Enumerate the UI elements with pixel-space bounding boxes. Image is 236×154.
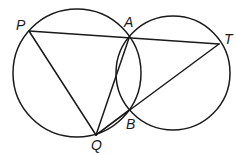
geometry-diagram: PATBQ	[0, 0, 236, 154]
right-circle	[116, 16, 230, 130]
point-label-t: T	[224, 31, 234, 47]
point-label-a: A	[123, 14, 133, 30]
segment-QA	[96, 38, 129, 135]
point-label-b: B	[126, 116, 135, 132]
segment-PQ	[29, 31, 96, 135]
left-circle	[13, 9, 141, 137]
segment-QT	[96, 44, 219, 135]
point-label-q: Q	[91, 137, 102, 153]
segment-PT	[29, 31, 219, 44]
point-label-p: P	[16, 17, 26, 33]
